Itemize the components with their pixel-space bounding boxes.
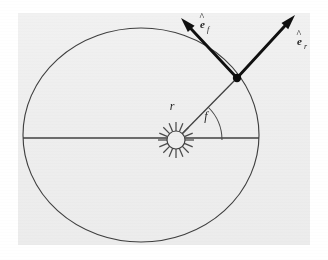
orbiting-body-dot bbox=[233, 74, 241, 82]
sun-icon bbox=[158, 122, 194, 158]
orbit-diagram-canvas: r f e ^ f e ^ r bbox=[0, 0, 328, 260]
unit-vector-er-hat: ^ bbox=[297, 28, 302, 39]
orbit-figure: r f e ^ f e ^ r bbox=[0, 0, 328, 260]
unit-vector-ef-hat: ^ bbox=[200, 11, 205, 22]
radius-label: r bbox=[170, 99, 175, 113]
